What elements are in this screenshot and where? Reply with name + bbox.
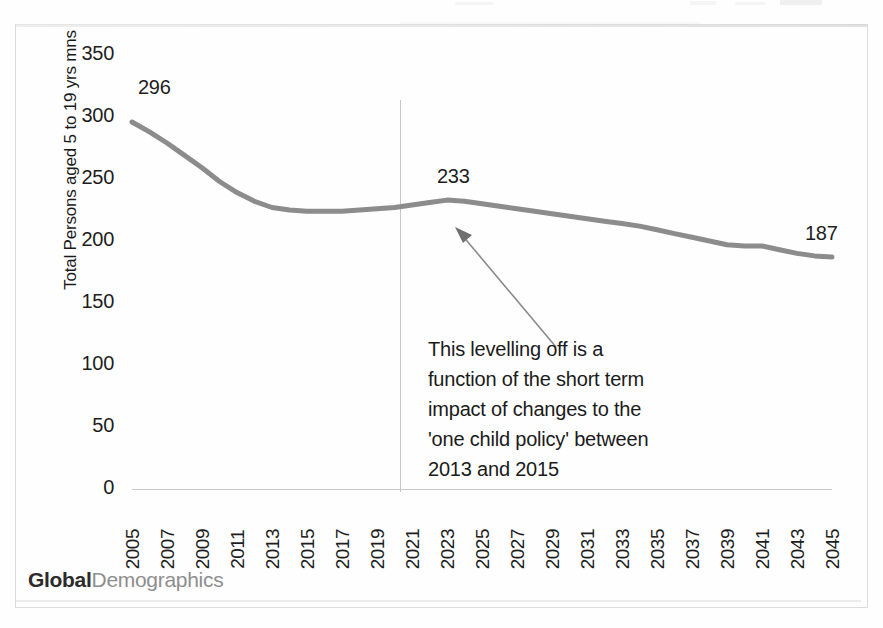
data-label-2023: 233 bbox=[437, 165, 469, 188]
x-tick-label-2013: 2013 bbox=[262, 529, 284, 569]
chart-page: Total Persons aged 5 to 19 yrs mns 05010… bbox=[0, 0, 883, 628]
x-tick-label-2035: 2035 bbox=[647, 529, 669, 569]
y-tick-label-50: 50 bbox=[58, 414, 114, 437]
annotation-levelling-off: This levelling off is a function of the … bbox=[428, 334, 728, 484]
data-label-2045: 187 bbox=[805, 222, 837, 245]
footer-rule bbox=[16, 600, 861, 602]
x-tick-label-2005: 2005 bbox=[122, 529, 144, 569]
annotation-line: impact of changes to the bbox=[428, 394, 728, 424]
x-tick-label-2033: 2033 bbox=[612, 529, 634, 569]
scan-artifact bbox=[455, 2, 493, 5]
annotation-line: function of the short term bbox=[428, 364, 728, 394]
chart-border-top-shade bbox=[16, 24, 867, 27]
x-tick-label-2023: 2023 bbox=[437, 529, 459, 569]
x-tick-label-2009: 2009 bbox=[192, 529, 214, 569]
y-tick-label-350: 350 bbox=[58, 42, 114, 65]
y-tick-label-250: 250 bbox=[58, 166, 114, 189]
x-tick-label-2043: 2043 bbox=[787, 529, 809, 569]
x-tick-label-2007: 2007 bbox=[157, 529, 179, 569]
scan-artifact bbox=[690, 1, 716, 5]
x-tick-label-2011: 2011 bbox=[227, 530, 249, 569]
y-tick-label-100: 100 bbox=[58, 352, 114, 375]
x-tick-label-2037: 2037 bbox=[682, 529, 704, 569]
x-tick-label-2021: 2021 bbox=[402, 529, 424, 569]
annotation-line: This levelling off is a bbox=[428, 334, 728, 364]
annotation-line: 2013 and 2015 bbox=[428, 454, 728, 484]
brand-secondary-text: Demographics bbox=[92, 568, 224, 591]
y-tick-label-300: 300 bbox=[58, 104, 114, 127]
y-tick-label-150: 150 bbox=[58, 290, 114, 313]
x-tick-label-2041: 2041 bbox=[752, 529, 774, 569]
x-tick-label-2017: 2017 bbox=[332, 529, 354, 569]
annotation-line: 'one child policy' between bbox=[428, 424, 728, 454]
x-tick-label-2015: 2015 bbox=[297, 529, 319, 569]
y-tick-label-200: 200 bbox=[58, 228, 114, 251]
y-tick-label-0: 0 bbox=[58, 476, 114, 499]
x-tick-label-2025: 2025 bbox=[472, 529, 494, 569]
data-label-2005: 296 bbox=[138, 76, 170, 99]
x-axis-line bbox=[132, 489, 832, 490]
brand-primary-text: Global bbox=[28, 568, 92, 591]
x-tick-label-2031: 2031 bbox=[577, 529, 599, 569]
scan-artifact bbox=[735, 2, 765, 5]
x-tick-label-2045: 2045 bbox=[822, 529, 844, 569]
x-tick-label-2039: 2039 bbox=[717, 529, 739, 569]
forecast-divider-line bbox=[400, 100, 401, 492]
x-tick-label-2019: 2019 bbox=[367, 529, 389, 569]
x-axis-tick-labels: 2005200720092011201320152017201920212023… bbox=[132, 497, 852, 569]
x-tick-label-2029: 2029 bbox=[542, 529, 564, 569]
x-tick-label-2027: 2027 bbox=[507, 529, 529, 569]
scan-artifact bbox=[780, 0, 822, 5]
brand-logo: GlobalDemographics bbox=[28, 568, 223, 592]
